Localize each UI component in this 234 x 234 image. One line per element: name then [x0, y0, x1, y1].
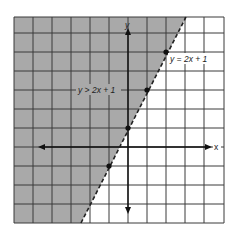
y-axis-down-arrow-icon — [125, 207, 131, 214]
point — [125, 125, 130, 130]
line-equation-label: y = 2x + 1 — [169, 54, 208, 64]
inequality-label: y > 2x + 1 — [77, 85, 116, 95]
point — [163, 49, 168, 54]
y-axis-label: y — [124, 20, 130, 30]
shaded-region — [14, 17, 186, 223]
x-axis-right-arrow-icon — [205, 144, 212, 150]
point — [144, 87, 149, 92]
coordinate-graph: x y y > 2x + 1 y = 2x + 1 — [0, 0, 234, 234]
point — [106, 163, 111, 168]
